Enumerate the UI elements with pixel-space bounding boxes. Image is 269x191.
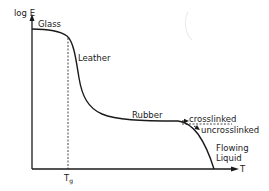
region-label-leather: Leather — [78, 54, 110, 63]
uncrosslinked-arrow-icon — [195, 125, 201, 130]
region-label-rubber: Rubber — [132, 111, 162, 120]
y-axis-label: log E — [14, 9, 35, 18]
region-label-liquid: Liquid — [216, 154, 242, 163]
x-axis-arrow-icon — [231, 167, 239, 172]
tg-tick-subscript: g — [69, 177, 73, 184]
tg-tick-label: Tg — [64, 174, 73, 183]
region-label-flowing: Flowing — [216, 144, 249, 153]
region-label-glass: Glass — [38, 20, 61, 29]
branch-label-uncrosslinked: uncrosslinked — [201, 126, 259, 135]
diagram-canvas: log E Glass Leather Rubber crosslinked u… — [0, 0, 269, 191]
faint-arc — [185, 12, 192, 40]
x-axis-label: T — [240, 165, 245, 174]
modulus-curve — [32, 29, 178, 121]
branch-label-crosslinked: crosslinked — [189, 115, 236, 124]
